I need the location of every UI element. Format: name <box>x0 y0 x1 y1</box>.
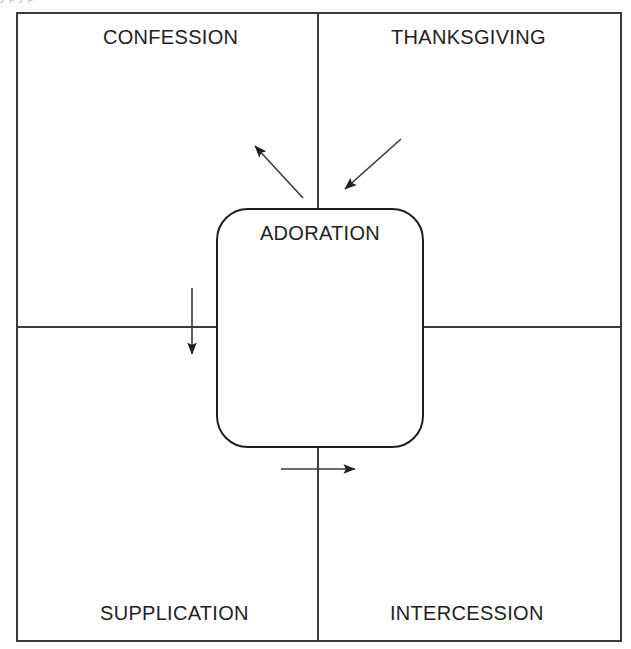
diagram-page: y p y p CONFESSION THANKSGIVING SUPPLICA… <box>0 0 631 649</box>
quadrant-label-supplication: SUPPLICATION <box>100 602 249 625</box>
divider-horizontal-left <box>16 326 217 328</box>
clipped-text-above-figure: y p y p <box>0 0 631 10</box>
quadrant-label-confession: CONFESSION <box>103 26 238 49</box>
quadrant-label-intercession: INTERCESSION <box>390 602 544 625</box>
center-node-label: ADORATION <box>218 222 422 245</box>
divider-horizontal-right <box>424 326 622 328</box>
quadrant-label-thanksgiving: THANKSGIVING <box>391 26 546 49</box>
center-node-adoration: ADORATION <box>216 208 424 448</box>
